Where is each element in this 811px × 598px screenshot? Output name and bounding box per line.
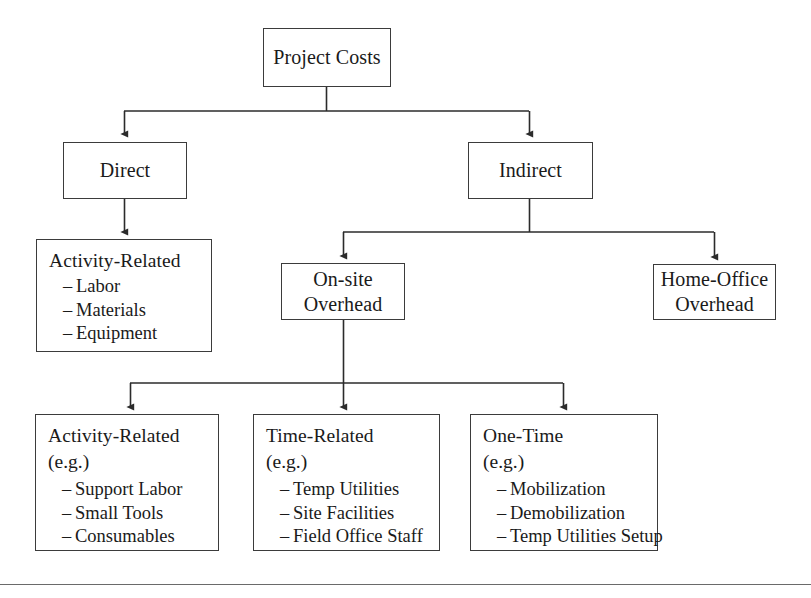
list-dash: – <box>497 478 510 502</box>
list-item: –Demobilization <box>497 502 657 526</box>
list-item-label: Labor <box>76 276 120 296</box>
node-onsite-one-time-eg: (e.g.) <box>483 450 657 474</box>
list-dash: – <box>280 525 293 549</box>
list-item-label: Mobilization <box>510 479 606 499</box>
list-item: –Site Facilities <box>280 502 439 526</box>
onsite-one-time-item-list: –Mobilization –Demobilization –Temp Util… <box>483 478 657 549</box>
list-item: –Field Office Staff <box>280 525 439 549</box>
list-item: –Support Labor <box>62 478 218 502</box>
node-home-office-overhead-label: Home-Office Overhead <box>661 267 768 317</box>
node-home-office-overhead[interactable]: Home-Office Overhead <box>653 264 776 320</box>
node-onsite-time-related-eg: (e.g.) <box>266 450 439 474</box>
list-dash: – <box>280 502 293 526</box>
list-item: –Temp Utilities Setup <box>497 525 657 549</box>
list-item: –Materials <box>63 299 211 323</box>
direct-activity-item-list: –Labor –Materials –Equipment <box>49 275 211 346</box>
list-dash: – <box>497 525 510 549</box>
list-item-label: Field Office Staff <box>293 526 423 546</box>
onsite-time-item-list: –Temp Utilities –Site Facilities –Field … <box>266 478 439 549</box>
node-indirect-label: Indirect <box>499 158 562 183</box>
node-onsite-activity-related-label: Activity-Related <box>48 424 218 448</box>
node-onsite-one-time[interactable]: One-Time (e.g.) –Mobilization –Demobiliz… <box>470 414 658 551</box>
diagram-canvas: Project Costs Direct Indirect Activity-R… <box>0 0 811 598</box>
list-item-label: Materials <box>76 300 146 320</box>
list-item-label: Temp Utilities Setup <box>510 526 663 546</box>
list-item-label: Site Facilities <box>293 503 394 523</box>
node-onsite-activity-related-eg: (e.g.) <box>48 450 218 474</box>
list-dash: – <box>62 525 75 549</box>
list-dash: – <box>63 299 76 323</box>
list-dash: – <box>62 478 75 502</box>
list-dash: – <box>63 275 76 299</box>
list-item-label: Small Tools <box>75 503 163 523</box>
list-item-label: Demobilization <box>510 503 625 523</box>
list-item: –Consumables <box>62 525 218 549</box>
list-dash: – <box>63 322 76 346</box>
node-onsite-time-related-label: Time-Related <box>266 424 439 448</box>
node-onsite-overhead-label: On-site Overhead <box>304 267 383 317</box>
node-direct-activity-related-label: Activity-Related <box>49 249 211 273</box>
onsite-activity-item-list: –Support Labor –Small Tools –Consumables <box>48 478 218 549</box>
node-direct[interactable]: Direct <box>63 142 187 199</box>
node-project-costs[interactable]: Project Costs <box>263 28 391 87</box>
node-onsite-overhead[interactable]: On-site Overhead <box>281 263 405 320</box>
page-footer-rule <box>0 584 811 585</box>
node-indirect[interactable]: Indirect <box>468 142 593 199</box>
list-dash: – <box>497 502 510 526</box>
list-item-label: Support Labor <box>75 479 182 499</box>
node-direct-activity-related[interactable]: Activity-Related –Labor –Materials –Equi… <box>36 239 212 352</box>
list-item-label: Consumables <box>75 526 175 546</box>
node-onsite-one-time-label: One-Time <box>483 424 657 448</box>
list-item: –Mobilization <box>497 478 657 502</box>
list-item-label: Temp Utilities <box>293 479 399 499</box>
list-item: –Small Tools <box>62 502 218 526</box>
node-direct-label: Direct <box>100 158 151 183</box>
list-dash: – <box>280 478 293 502</box>
list-item: –Temp Utilities <box>280 478 439 502</box>
node-onsite-activity-related[interactable]: Activity-Related (e.g.) –Support Labor –… <box>35 414 219 551</box>
list-dash: – <box>62 502 75 526</box>
list-item-label: Equipment <box>76 323 157 343</box>
list-item: –Equipment <box>63 322 211 346</box>
list-item: –Labor <box>63 275 211 299</box>
node-project-costs-label: Project Costs <box>273 45 380 70</box>
node-onsite-time-related[interactable]: Time-Related (e.g.) –Temp Utilities –Sit… <box>253 414 440 551</box>
